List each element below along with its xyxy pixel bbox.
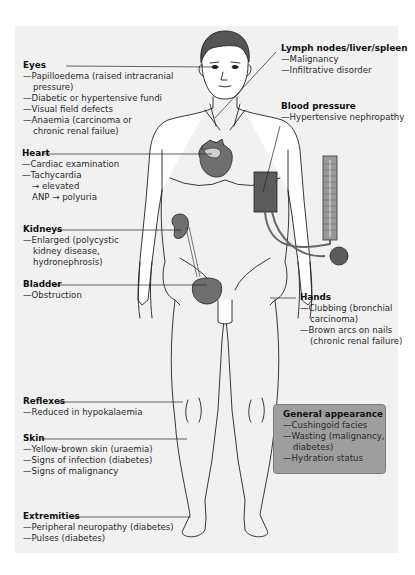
general-appearance-box: General appearance —Cushingoid facies —W… [273, 404, 386, 474]
eyes-item: —Papilloedema (raised intracranial [23, 71, 173, 82]
eyes-item: chronic renal failue) [23, 126, 173, 137]
general-title: General appearance [283, 409, 385, 420]
reflexes-title: Reflexes [23, 396, 142, 407]
label-blood-pressure: Blood pressure —Hypertensive nephropathy [281, 101, 404, 123]
bp-cuff-icon [254, 172, 277, 212]
blood-pressure-title: Blood pressure [281, 101, 404, 112]
head-icon [199, 31, 251, 99]
skin-item: —Signs of malignancy [23, 466, 153, 477]
kidneys-item: —Enlarged (polycystic [23, 235, 119, 246]
label-kidneys: Kidneys —Enlarged (polycystic kidney dis… [23, 224, 119, 268]
heart-icon [199, 139, 232, 177]
reflexes-item: —Reduced in hypokalaemia [23, 407, 142, 418]
eyes-item: —Visual field defects [23, 104, 173, 115]
bp-bulb-icon [330, 247, 348, 265]
heart-item: —Tachycardia [22, 170, 119, 181]
eyes-item: —Diabetic or hypertensive fundi [23, 93, 173, 104]
label-extremities: Extremities —Peripheral neuropathy (diab… [23, 511, 174, 544]
hands-item: carcinoma) [300, 314, 402, 325]
heart-item: —Cardiac examination [22, 159, 119, 170]
kidneys-title: Kidneys [23, 224, 119, 235]
skin-title: Skin [23, 433, 153, 444]
label-heart: Heart —Cardiac examination —Tachycardia … [22, 148, 119, 203]
label-eyes: Eyes —Papilloedema (raised intracranial … [23, 60, 173, 137]
skin-item: —Signs of infection (diabetes) [23, 455, 153, 466]
heart-item: → elevated [22, 181, 119, 192]
lymph-item: —Malignancy [281, 54, 408, 65]
kidney-icon [172, 214, 189, 239]
kidneys-item: hydronephrosis) [23, 257, 119, 268]
label-reflexes: Reflexes —Reduced in hypokalaemia [23, 396, 142, 418]
extremities-title: Extremities [23, 511, 174, 522]
kidneys-item: kidney disease, [23, 246, 119, 257]
bladder-item: —Obstruction [23, 290, 82, 301]
lymph-title: Lymph nodes/liver/spleen [281, 43, 408, 54]
general-item: —Hydration status [283, 453, 385, 464]
label-skin: Skin —Yellow-brown skin (uraemia) —Signs… [23, 433, 153, 477]
hands-item: —Brown arcs on nails [300, 325, 402, 336]
general-item: —Wasting (malignancy, [283, 431, 385, 442]
heart-item: ANP → polyuria [22, 192, 119, 203]
label-lymph: Lymph nodes/liver/spleen —Malignancy —In… [281, 43, 408, 76]
hands-item: —Clubbing (bronchial [300, 303, 402, 314]
hands-item: (chronic renal failure) [300, 336, 402, 347]
skin-item: —Yellow-brown skin (uraemia) [23, 444, 153, 455]
bladder-title: Bladder [23, 279, 82, 290]
extremities-item: —Peripheral neuropathy (diabetes) [23, 522, 174, 533]
lymph-item: —Infiltrative disorder [281, 65, 408, 76]
heart-title: Heart [22, 148, 119, 159]
eyes-item: pressure) [23, 82, 173, 93]
label-hands: Hands —Clubbing (bronchial carcinoma) —B… [300, 292, 402, 347]
general-item: diabetes) [283, 442, 385, 453]
bladder-icon [192, 278, 221, 304]
general-item: —Cushingoid facies [283, 420, 385, 431]
blood-pressure-item: —Hypertensive nephropathy [281, 112, 404, 123]
eyes-item: —Anaemia (carcinoma or [23, 115, 173, 126]
eyes-title: Eyes [23, 60, 173, 71]
extremities-item: —Pulses (diabetes) [23, 533, 174, 544]
label-bladder: Bladder —Obstruction [23, 279, 82, 301]
hands-title: Hands [300, 292, 402, 303]
